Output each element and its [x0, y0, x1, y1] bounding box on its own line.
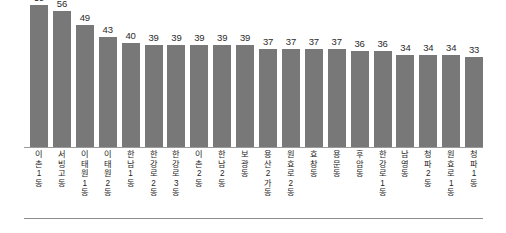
category-label: 남영동 [394, 150, 416, 179]
category-label-char: 1 [120, 169, 142, 179]
x-axis-labels: 이촌1동서빙고동이태원1동이태원2동한남1동한강로2동한강로3동이촌2동한남2동… [0, 150, 506, 216]
category-label-char: 청 [417, 150, 439, 160]
category-label: 한강로1동 [372, 150, 394, 198]
category-label-char: 강 [165, 160, 187, 170]
bar [442, 55, 460, 148]
bar [236, 45, 254, 148]
bar-slot: 56 [51, 0, 73, 148]
category-label-char: 로 [280, 169, 302, 179]
category-label-char: 효 [280, 160, 302, 170]
plot-area: 5956494340393939393937373737363634343433 [0, 0, 506, 148]
bar [190, 45, 208, 148]
bar-slot: 34 [394, 0, 416, 148]
category-label-char: 로 [440, 169, 462, 179]
bar [30, 5, 48, 148]
bar-value-label: 36 [349, 39, 371, 49]
bar-value-label: 39 [188, 33, 210, 43]
category-label-char: 동 [463, 179, 485, 189]
bar-value-label: 59 [28, 0, 50, 3]
bar [99, 37, 117, 148]
category-label-char: 보 [234, 150, 256, 160]
category-label: 효창동 [303, 150, 325, 179]
bar [419, 55, 437, 148]
category-label-char: 한 [143, 150, 165, 160]
category-label-char: 원 [97, 169, 119, 179]
category-label-char: 동 [417, 179, 439, 189]
bar [213, 45, 231, 148]
category-label-char: 2 [280, 179, 302, 189]
bar-value-label: 56 [51, 0, 73, 9]
category-label: 용산2가동 [257, 150, 279, 198]
category-label-char: 영 [394, 160, 416, 170]
bar-value-label: 34 [394, 43, 416, 53]
category-label-char: 1 [372, 179, 394, 189]
bar-slot: 39 [211, 0, 233, 148]
category-label-char: 2 [97, 179, 119, 189]
bar-slot: 37 [280, 0, 302, 148]
category-label-char: 동 [440, 188, 462, 198]
category-label-char: 빙 [51, 160, 73, 170]
category-label-char: 3 [165, 179, 187, 189]
category-label-char: 강 [372, 160, 394, 170]
category-label-char: 태 [74, 160, 96, 170]
category-label-char: 동 [280, 188, 302, 198]
category-label-char: 이 [28, 150, 50, 160]
category-label: 한남1동 [120, 150, 142, 188]
category-label-char: 암 [349, 160, 371, 170]
category-label-char: 한 [120, 150, 142, 160]
category-label: 용문동 [326, 150, 348, 179]
bar [167, 45, 185, 148]
bar-slot: 43 [97, 0, 119, 148]
category-label: 한강로3동 [165, 150, 187, 198]
bar-slot: 34 [440, 0, 462, 148]
bar-chart: 5956494340393939393937373737363634343433… [0, 0, 506, 233]
bar-value-label: 49 [74, 13, 96, 23]
category-label: 한강로2동 [143, 150, 165, 198]
category-label-char: 문 [326, 160, 348, 170]
category-label-char: 2 [417, 169, 439, 179]
bar-value-label: 37 [326, 37, 348, 47]
x-axis-line [24, 147, 483, 148]
bar-value-label: 37 [303, 37, 325, 47]
category-label: 이태원2동 [97, 150, 119, 198]
category-label-char: 촌 [188, 160, 210, 170]
bar-slot: 40 [120, 0, 142, 148]
bottom-divider [24, 218, 483, 219]
category-label-char: 용 [257, 150, 279, 160]
category-label-char: 원 [280, 150, 302, 160]
category-label-char: 동 [143, 188, 165, 198]
category-label-char: 광 [234, 160, 256, 170]
bar [282, 49, 300, 148]
bar [122, 43, 140, 148]
category-label-char: 1 [28, 169, 50, 179]
bar-slot: 36 [349, 0, 371, 148]
category-label-char: 1 [463, 169, 485, 179]
category-label: 원효로2동 [280, 150, 302, 198]
category-label-char: 고 [51, 169, 73, 179]
category-label-char: 남 [211, 160, 233, 170]
category-label-char: 이 [188, 150, 210, 160]
category-label-char: 동 [97, 188, 119, 198]
category-label-char: 산 [257, 160, 279, 170]
category-label-char: 동 [394, 169, 416, 179]
category-label: 이촌1동 [28, 150, 50, 188]
bar-value-label: 37 [257, 37, 279, 47]
bar-value-label: 33 [463, 45, 485, 55]
bar [328, 49, 346, 148]
bar-value-label: 34 [440, 43, 462, 53]
category-label-char: 한 [372, 150, 394, 160]
bar-value-label: 43 [97, 25, 119, 35]
bar-value-label: 39 [165, 33, 187, 43]
category-label-char: 한 [165, 150, 187, 160]
category-label-char: 동 [28, 179, 50, 189]
bar [465, 57, 483, 148]
bar [374, 51, 392, 148]
category-label-char: 촌 [28, 160, 50, 170]
category-label: 청파1동 [463, 150, 485, 188]
bar-slot: 49 [74, 0, 96, 148]
category-label-char: 동 [326, 169, 348, 179]
category-label-char: 동 [257, 188, 279, 198]
bar [259, 49, 277, 148]
category-label-char: 용 [326, 150, 348, 160]
bar-slot: 39 [165, 0, 187, 148]
